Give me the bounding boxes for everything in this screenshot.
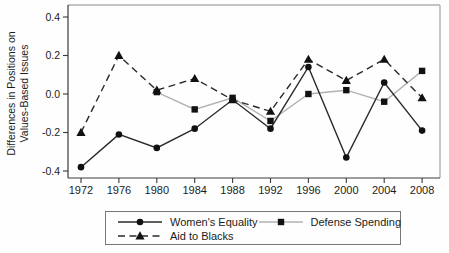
series-aid-to-blacks-marker [304,55,313,63]
legend-row-1: Women's Equality Defense Spending [117,215,400,229]
series-women-s-equality-marker [78,164,85,171]
legend-swatch-marker [137,219,144,226]
legend: Women's Equality Defense Spending Aid to… [105,211,401,245]
aid-to-blacks-triangle-line-icon [117,230,163,242]
series-aid-to-blacks-marker [114,51,123,59]
y-tick-label: 0.2 [45,49,60,61]
x-tick-label: 2000 [334,184,358,196]
x-tick-label: 2008 [410,184,434,196]
series-women-s-equality-marker [191,125,198,132]
legend-label-aid-to-blacks: Aid to Blacks [170,230,234,242]
x-tick-label: 1984 [182,184,206,196]
womens-equality-circle-line-icon [117,216,163,228]
x-tick-label: 1980 [145,184,169,196]
series-women-s-equality-marker [343,154,350,161]
legend-item-womens-equality: Women's Equality [117,216,258,228]
series-women-s-equality-marker [116,131,123,138]
series-defense-spending-marker [381,99,387,105]
series-aid-to-blacks-line [81,56,422,133]
legend-item-aid-to-blacks: Aid to Blacks [117,230,258,242]
x-tick-label: 1976 [107,184,131,196]
series-aid-to-blacks-marker [342,76,351,84]
legend-item-defense-spending: Defense Spending [258,216,402,228]
y-tick-label: -0.4 [42,165,60,177]
series-women-s-equality-marker [267,125,274,132]
x-tick-label: 1992 [258,184,282,196]
x-tick-label: 1996 [296,184,320,196]
y-tick-label: 0.0 [45,88,60,100]
legend-swatch-marker [277,219,283,225]
series-defense-spending-marker [419,68,425,74]
legend-row-2: Aid to Blacks [117,229,400,243]
series-women-s-equality-line [81,67,422,167]
series-defense-spending-marker [343,87,349,93]
line-chart-figure: Differences in Positions on Values-Based… [0,0,449,253]
series-defense-spending-marker [305,91,311,97]
series-aid-to-blacks-marker [190,74,199,82]
legend-label-defense-spending: Defense Spending [311,216,402,228]
series-women-s-equality-marker [419,127,426,134]
y-tick-label: -0.2 [42,126,60,138]
defense-spending-square-line-icon [258,216,304,228]
x-tick-label: 2004 [372,184,396,196]
series-women-s-equality-marker [381,79,388,86]
series-defense-spending-marker [192,106,198,112]
series-women-s-equality-marker [154,145,161,152]
series-defense-spending-marker [267,118,273,124]
x-tick-label: 1988 [220,184,244,196]
series-aid-to-blacks-marker [380,55,389,63]
legend-label-womens-equality: Women's Equality [170,216,258,228]
y-tick-label: 0.4 [45,11,60,23]
x-tick-label: 1972 [69,184,93,196]
series-women-s-equality-marker [305,64,312,71]
series-aid-to-blacks-marker [76,128,85,136]
